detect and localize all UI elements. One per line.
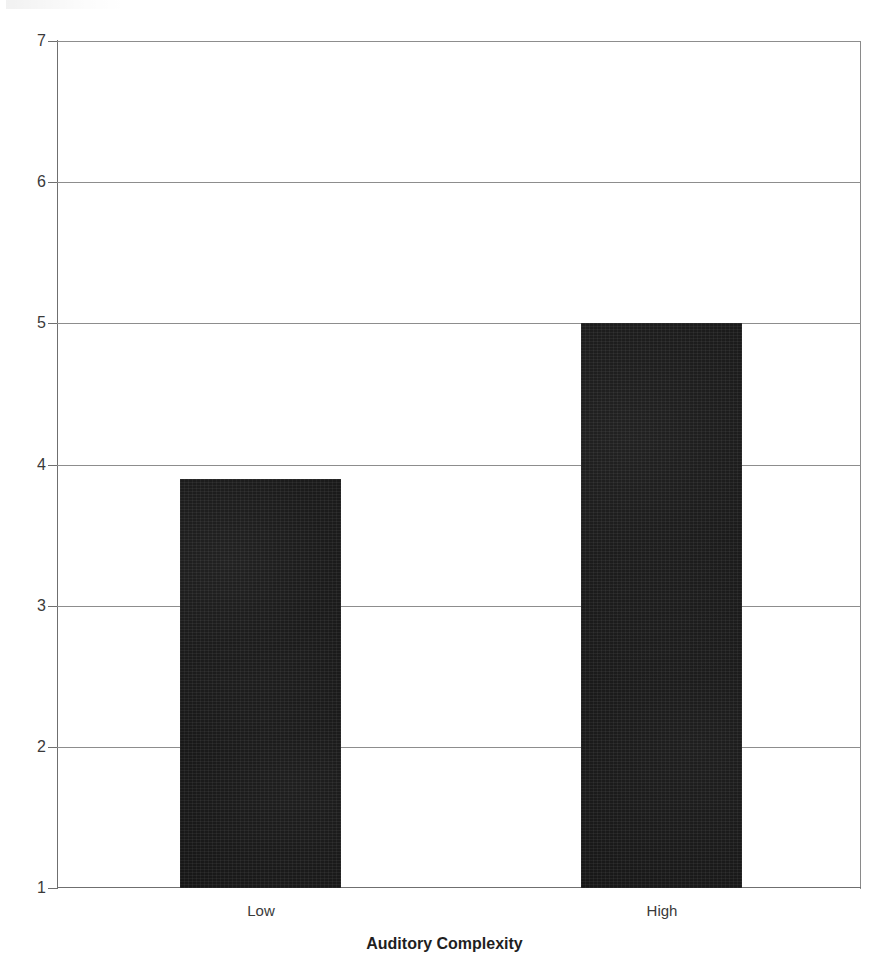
- y-tick-label-4: 4: [37, 457, 46, 473]
- y-tick-label-3: 3: [37, 598, 46, 614]
- bar-high: [581, 323, 742, 888]
- plot-area: 7 6 5 4 3 2 1: [57, 41, 861, 888]
- x-axis-title: Auditory Complexity: [0, 935, 889, 953]
- y-tick-3: [48, 606, 57, 607]
- y-tick-label-2: 2: [37, 739, 46, 755]
- bar-low: [180, 479, 341, 888]
- y-tick-2: [48, 747, 57, 748]
- y-tick-label-1: 1: [37, 880, 46, 896]
- y-tick-6: [48, 182, 57, 183]
- y-tick-label-6: 6: [37, 174, 46, 190]
- x-tick-label-low: Low: [247, 903, 275, 918]
- y-tick-1: [48, 888, 57, 889]
- y-tick-label-5: 5: [37, 315, 46, 331]
- gridline-7: [57, 41, 861, 42]
- x-tick-label-high: High: [647, 903, 678, 918]
- scan-artifact: [6, 0, 126, 9]
- y-tick-5: [48, 323, 57, 324]
- bar-chart-figure: 7 6 5 4 3 2 1 Low High Auditory Complexi…: [0, 0, 889, 975]
- gridline-6: [57, 182, 861, 183]
- y-tick-label-7: 7: [37, 33, 46, 49]
- y-tick-4: [48, 465, 57, 466]
- y-tick-7: [48, 41, 57, 42]
